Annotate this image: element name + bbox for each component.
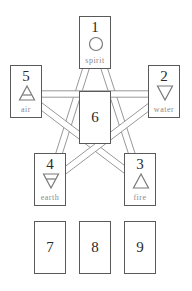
triangle-down-icon: [156, 85, 174, 101]
card-number: 8: [80, 240, 110, 255]
card-7[interactable]: 7: [34, 221, 66, 274]
triangle-down-barred-icon: [42, 173, 60, 189]
card-number: 3: [125, 157, 155, 172]
card-number: 9: [125, 240, 155, 255]
card-8[interactable]: 8: [79, 221, 111, 274]
card-element-label: water: [149, 106, 179, 114]
card-9[interactable]: 9: [124, 221, 156, 274]
card-number: 2: [149, 69, 179, 84]
card-6-center[interactable]: 6: [79, 91, 111, 144]
card-1-spirit[interactable]: 1 spirit: [79, 16, 111, 69]
triangle-up-icon: [132, 173, 150, 189]
card-number: 7: [35, 240, 65, 255]
card-element-label: fire: [125, 194, 155, 202]
card-element-label: earth: [35, 194, 65, 202]
card-number: 5: [11, 69, 41, 84]
card-number: 1: [80, 20, 110, 35]
card-2-water[interactable]: 2 water: [148, 65, 180, 118]
card-5-air[interactable]: 5 air: [10, 65, 42, 118]
card-number: 4: [35, 157, 65, 172]
card-number: 6: [80, 110, 110, 125]
card-element-label: spirit: [80, 57, 110, 65]
card-element-label: air: [11, 106, 41, 114]
card-3-fire[interactable]: 3 fire: [124, 153, 156, 206]
triangle-up-barred-icon: [18, 85, 36, 101]
circle-icon: [87, 36, 105, 52]
card-4-earth[interactable]: 4 earth: [34, 153, 66, 206]
